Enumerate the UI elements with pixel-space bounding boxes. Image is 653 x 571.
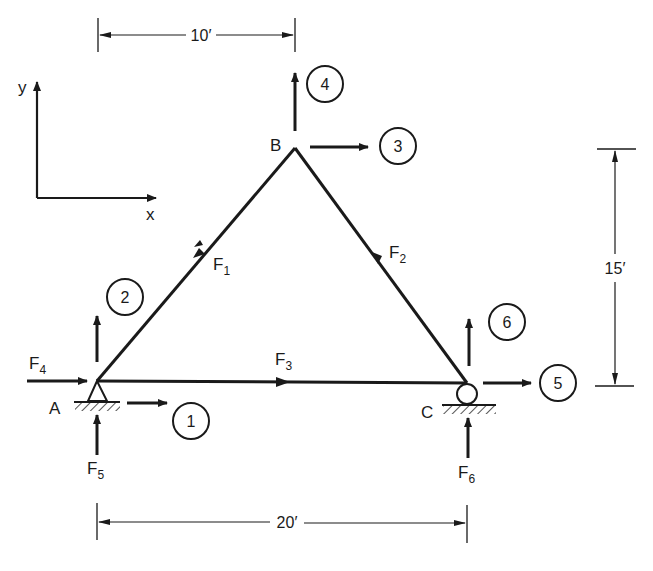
y-axis-label: y	[18, 78, 27, 97]
dimension-right: 15′	[595, 149, 636, 386]
dof-1-number: 1	[187, 413, 196, 430]
dimension-right-label: 15′	[605, 260, 626, 277]
dof-3-number: 3	[394, 138, 403, 155]
dimension-top-label: 10′	[191, 27, 212, 44]
member-ab	[97, 148, 295, 381]
reaction-label-f6: F6	[458, 463, 475, 486]
dof-6-number: 6	[503, 314, 512, 331]
member-bc	[295, 148, 467, 383]
reaction-label-f5: F5	[87, 459, 104, 482]
reaction-f4: F4	[27, 354, 87, 381]
dof-4-number: 4	[321, 76, 330, 93]
member-label-f1: F1	[213, 255, 230, 278]
coordinate-axes: y x	[18, 78, 156, 224]
node-label-b: B	[270, 136, 281, 155]
member-ab-arrow-icon	[194, 240, 203, 247]
reaction-f6: F6	[458, 418, 475, 486]
dof-2-number: 2	[121, 289, 130, 306]
dof-5: 5	[483, 365, 576, 401]
dof-1: 1	[127, 403, 209, 439]
node-label-c: C	[421, 403, 433, 422]
dof-4: 4	[295, 66, 343, 131]
member-label-f2: F2	[389, 243, 406, 266]
dof-3: 3	[310, 128, 416, 164]
member-label-f3: F3	[275, 350, 292, 373]
dimension-bottom: 20′	[97, 503, 467, 543]
truss-diagram: y x 10′ 15′ 20′ F1 F2 F3	[0, 0, 653, 571]
member-ac-arrow-icon	[276, 377, 290, 387]
x-axis-label: x	[146, 205, 155, 224]
pin-support-a-icon	[74, 381, 120, 411]
node-label-a: A	[49, 399, 61, 418]
dimension-top: 10′	[98, 18, 295, 52]
dof-6: 6	[469, 304, 525, 366]
dimension-bottom-label: 20′	[277, 514, 298, 531]
roller-support-c-icon	[442, 384, 496, 414]
reaction-f5: F5	[87, 415, 104, 482]
dof-5-number: 5	[554, 375, 563, 392]
reaction-label-f4: F4	[29, 354, 46, 377]
dof-2: 2	[97, 279, 143, 362]
